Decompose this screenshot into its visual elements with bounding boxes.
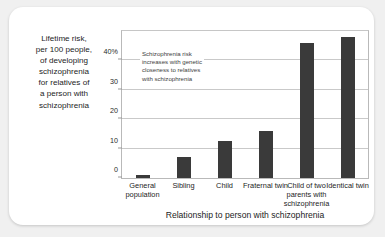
bar-group: Child of two parents with schizophrenia [286,31,327,178]
caption-line: Lifetime risk, [21,33,107,44]
x-axis-title: Relationship to person with schizophreni… [121,210,369,220]
y-tick-label: 10 [110,135,118,144]
y-tick-label: 30 [110,76,118,85]
caption-line: schizophrenia [21,100,107,111]
caption-line: for relatives of [21,77,107,88]
caption-line: a person with [21,88,107,99]
chart-annotation: Schizophrenia risk increases with geneti… [140,49,204,84]
bar-group: Child [204,31,245,178]
caption-line: per 100 people, [21,44,107,55]
bar [218,141,232,178]
y-tick-label: 40% [104,47,118,56]
x-tick-label: Identical twin [322,181,374,190]
bar-group: Fraternal twin [245,31,286,178]
y-tick-label: 0 [114,165,118,174]
bar-group: Identical twin [327,31,368,178]
y-tick-label: 20 [110,106,118,115]
bar [177,157,191,178]
bar [341,37,355,178]
caption-line: of developing [21,55,107,66]
bar [136,175,150,178]
screenshot-root: Lifetime risk,per 100 people,of developi… [0,0,385,237]
y-axis-caption: Lifetime risk,per 100 people,of developi… [21,33,107,111]
chart-card: Lifetime risk,per 100 people,of developi… [9,7,374,225]
bar [259,131,273,178]
bar [300,43,314,178]
caption-line: schizophrenia [21,66,107,77]
plot-area: 010203040% General populationSiblingChil… [121,30,369,179]
